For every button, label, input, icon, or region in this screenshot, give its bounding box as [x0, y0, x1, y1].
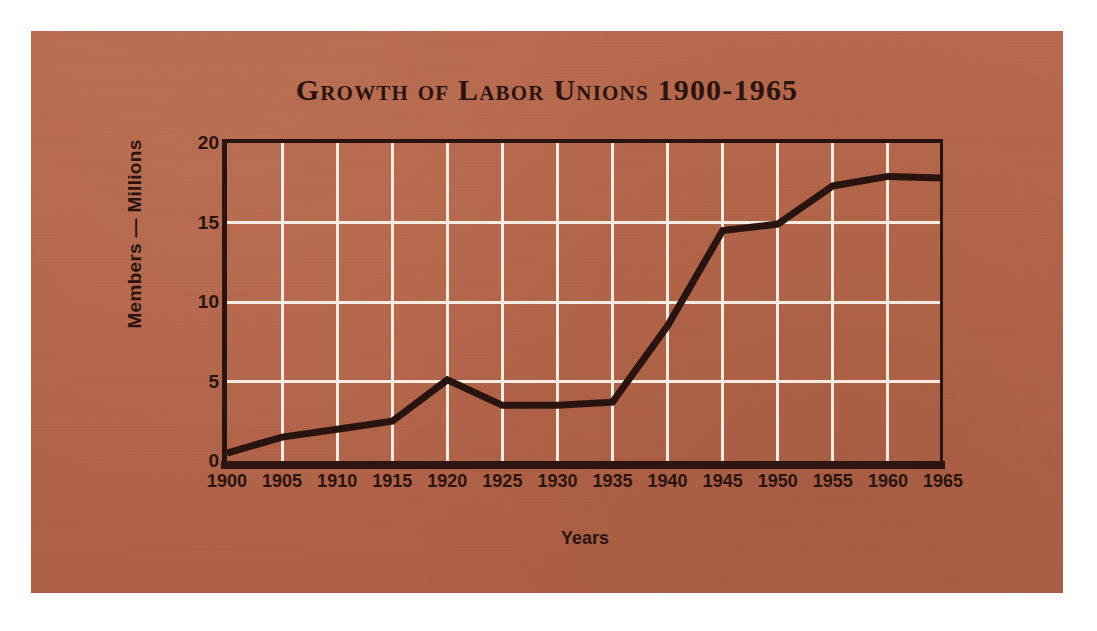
x-tick-label-1915: 1915 — [372, 471, 412, 492]
y-tick-label-5: 5 — [208, 371, 219, 393]
x-tick-label-1950: 1950 — [758, 471, 798, 492]
x-tick-label-1945: 1945 — [703, 471, 743, 492]
chart-page: Growth of Labor Unions 1900-1965 Members… — [0, 0, 1097, 631]
x-axis-baseline — [221, 461, 945, 469]
x-tick-label-1930: 1930 — [537, 471, 577, 492]
x-tick-label-1910: 1910 — [317, 471, 357, 492]
x-tick-label-1900: 1900 — [207, 471, 247, 492]
x-tick-label-1935: 1935 — [593, 471, 633, 492]
y-tick-label-10: 10 — [198, 291, 219, 313]
series-line-union-membership — [227, 143, 943, 461]
x-tick-label-1965: 1965 — [923, 471, 963, 492]
x-tick-label-1925: 1925 — [482, 471, 522, 492]
x-tick-label-1960: 1960 — [868, 471, 908, 492]
x-tick-label-1940: 1940 — [648, 471, 688, 492]
y-tick-label-15: 15 — [198, 212, 219, 234]
x-axis-title: Years — [227, 528, 943, 549]
x-tick-label-1955: 1955 — [813, 471, 853, 492]
plot-area — [227, 143, 943, 461]
y-axis-title: Members — Millions — [124, 124, 146, 344]
x-tick-label-1920: 1920 — [427, 471, 467, 492]
x-axis-tick-labels: 1900190519101915192019251930193519401945… — [227, 471, 943, 497]
chart-title: Growth of Labor Unions 1900-1965 — [31, 73, 1063, 107]
x-tick-label-1905: 1905 — [262, 471, 302, 492]
y-tick-label-0: 0 — [208, 450, 219, 472]
y-tick-label-20: 20 — [198, 132, 219, 154]
poster-panel: Growth of Labor Unions 1900-1965 Members… — [31, 31, 1063, 593]
y-axis-tick-labels: 05101520 — [181, 143, 219, 461]
